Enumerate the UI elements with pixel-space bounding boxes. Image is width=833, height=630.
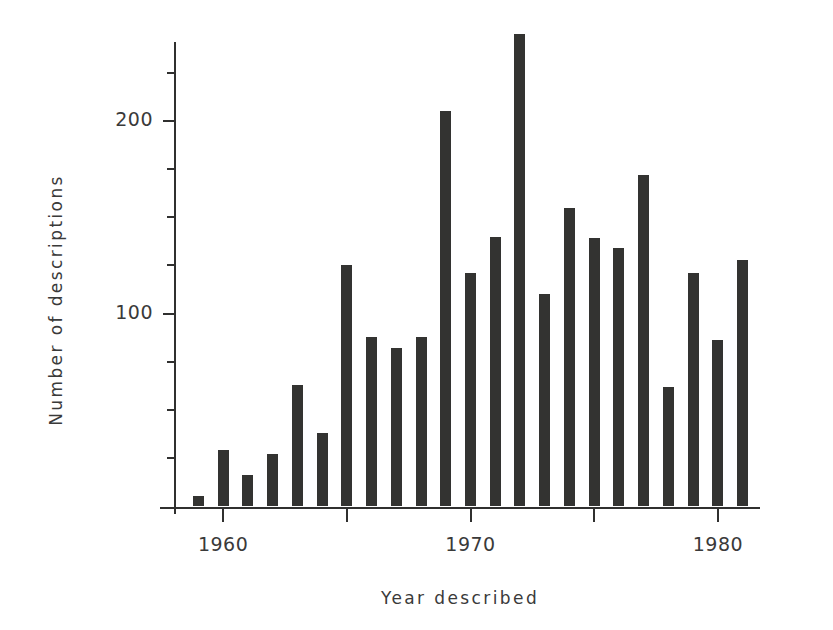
bar — [712, 340, 723, 506]
bar — [218, 450, 229, 506]
bar — [688, 273, 699, 506]
bar — [391, 348, 402, 506]
bar — [564, 208, 575, 506]
bar — [267, 454, 278, 506]
bar — [663, 387, 674, 506]
bar-series — [0, 0, 833, 630]
bar — [613, 248, 624, 506]
bar — [317, 433, 328, 506]
bar — [193, 496, 204, 506]
bar — [638, 175, 649, 506]
bar — [737, 260, 748, 506]
bar — [589, 238, 600, 506]
bar — [490, 237, 501, 507]
bar — [440, 111, 451, 506]
bar — [292, 385, 303, 506]
bar — [242, 475, 253, 506]
bar-chart-figure: Number of descriptions Year described 10… — [0, 0, 833, 630]
bar — [366, 337, 377, 506]
bar — [341, 265, 352, 506]
bar — [465, 273, 476, 506]
bar — [514, 34, 525, 506]
bar — [539, 294, 550, 506]
bar — [416, 337, 427, 506]
